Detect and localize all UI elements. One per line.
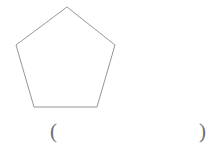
answer-paren-open: ( xyxy=(50,118,57,144)
answer-blank-field[interactable] xyxy=(62,120,198,144)
page-canvas: ( ) xyxy=(0,0,219,153)
answer-row: ( ) xyxy=(0,118,219,153)
answer-paren-close: ) xyxy=(199,118,206,144)
pentagon-figure xyxy=(0,0,219,118)
pentagon-shape xyxy=(16,7,115,107)
figure-area xyxy=(0,0,219,118)
